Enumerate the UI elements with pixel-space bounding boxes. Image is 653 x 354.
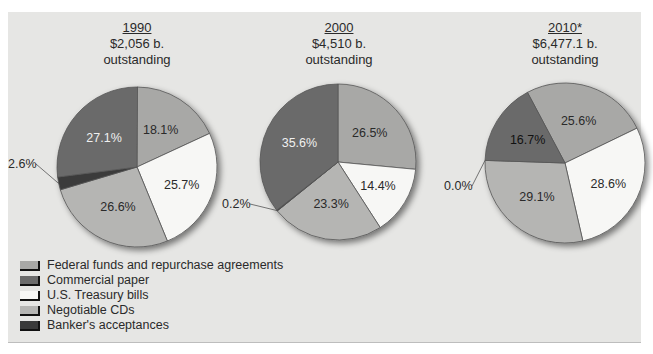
pie-slice-label: 29.1% xyxy=(519,190,554,204)
swatch-icon xyxy=(20,261,40,271)
legend-item-bankers-acceptances: Banker's acceptances xyxy=(20,318,283,333)
legend-item-federal-funds: Federal funds and repurchase agreements xyxy=(20,258,283,273)
legend: Federal funds and repurchase agreements … xyxy=(20,258,283,333)
legend-label: U.S. Treasury bills xyxy=(47,288,148,303)
pie-slice-label: 27.1% xyxy=(86,131,121,145)
pie-slice-label: 0.0% xyxy=(444,179,473,193)
pie-slice-label: 28.6% xyxy=(591,177,626,191)
pie-slice-label: 2.6% xyxy=(8,157,37,171)
pie-slice-label: 0.2% xyxy=(222,197,251,211)
pie-slice-label: 23.3% xyxy=(313,197,348,211)
pie-slice-label: 35.6% xyxy=(282,136,317,150)
pie-slice-label: 25.7% xyxy=(164,178,199,192)
swatch-icon xyxy=(20,291,40,301)
legend-label: Banker's acceptances xyxy=(47,318,169,333)
legend-label: Federal funds and repurchase agreements xyxy=(47,258,283,273)
legend-item-negotiable-cds: Negotiable CDs xyxy=(20,303,283,318)
legend-item-treasury-bills: U.S. Treasury bills xyxy=(20,288,283,303)
legend-item-commercial-paper: Commercial paper xyxy=(20,273,283,288)
leader-line xyxy=(472,160,485,186)
pie-slice-label: 26.5% xyxy=(352,126,387,140)
swatch-icon xyxy=(20,276,40,286)
leader-line xyxy=(36,164,59,183)
legend-label: Commercial paper xyxy=(47,273,149,288)
pie-2010 xyxy=(485,83,645,243)
swatch-icon xyxy=(20,306,40,316)
pie-slice-label: 25.6% xyxy=(561,114,596,128)
pie-2000 xyxy=(260,84,416,240)
pie-slice-label: 14.4% xyxy=(360,179,395,193)
swatch-icon xyxy=(20,321,40,331)
pie-slice-label: 16.7% xyxy=(510,133,545,147)
legend-label: Negotiable CDs xyxy=(47,303,135,318)
pie-slice-label: 26.6% xyxy=(100,200,135,214)
pie-slice-label: 18.1% xyxy=(143,123,178,137)
pie-1990 xyxy=(57,87,217,247)
